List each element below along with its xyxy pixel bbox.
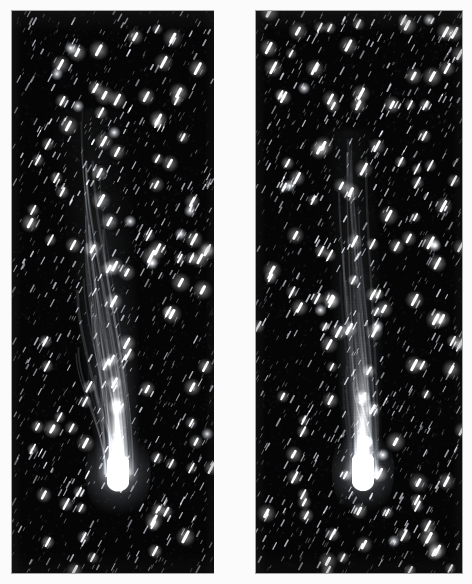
panel-gutter (214, 0, 256, 584)
comet-image-left (12, 11, 214, 573)
comet-image-right (256, 11, 462, 573)
comet-plate-right (256, 11, 462, 573)
figure-root (0, 0, 472, 584)
comet-plate-left (12, 11, 214, 573)
